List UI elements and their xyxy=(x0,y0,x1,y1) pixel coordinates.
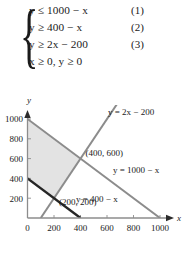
system-of-inequalities: { y ≤ 1000 − x (1) y ≥ 400 − x (2) y ≥ 2… xyxy=(0,0,182,74)
y-tick-label: 200 xyxy=(10,194,24,204)
x-tick-label: 800 xyxy=(127,223,141,233)
inequality-4: x ≥ 0, y ≥ 0 xyxy=(29,56,82,67)
chart-svg: 020040060080010002004006008001000 yx(400… xyxy=(0,85,182,262)
y-axis-label: y xyxy=(26,95,31,105)
y-tick-label: 600 xyxy=(10,154,24,164)
x-tick-label: 400 xyxy=(74,223,88,233)
x-tick-label: 600 xyxy=(100,223,114,233)
feasible-region-chart: 020040060080010002004006008001000 yx(400… xyxy=(0,85,182,262)
x-axis-label: x xyxy=(176,213,181,223)
series-label-y-1000-x: y = 1000 − x xyxy=(113,165,160,175)
series-label-y-2x-200: y = 2x − 200 xyxy=(108,107,155,117)
inequality-1-number: (1) xyxy=(131,5,144,16)
inequality-2-number: (2) xyxy=(131,22,144,33)
series-label-y-400-x: y = 400 − x xyxy=(76,194,118,204)
y-tick-label: 400 xyxy=(10,174,24,184)
y-tick-label: 800 xyxy=(10,134,24,144)
x-tick-label: 1000 xyxy=(151,223,170,233)
y-tick-label: 1000 xyxy=(5,114,24,124)
inequality-1: y ≤ 1000 − x xyxy=(29,5,88,16)
shaded-region-group xyxy=(28,119,81,198)
inequality-3-number: (3) xyxy=(131,39,144,50)
x-tick-label: 200 xyxy=(47,223,61,233)
x-axis-arrow xyxy=(166,215,174,221)
inequality-3: y ≥ 2x − 200 xyxy=(29,39,88,50)
feasible-region xyxy=(28,119,81,198)
y-axis-arrow xyxy=(24,110,30,118)
x-tick-label: 0 xyxy=(25,223,30,233)
inequality-2: y ≥ 400 − x xyxy=(29,22,82,33)
vertex-400-600-label: (400, 600) xyxy=(86,148,124,158)
